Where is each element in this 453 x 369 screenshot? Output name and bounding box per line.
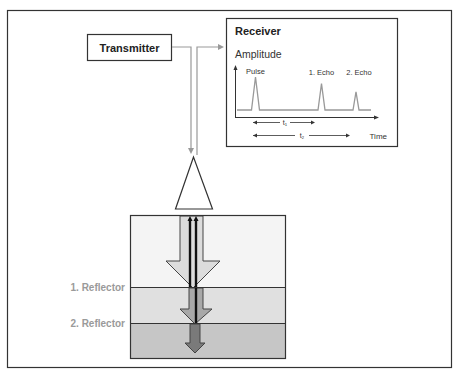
ultrasonic-echo-diagram: Transmitter Receiver Amplitude Pulse 1. … (0, 0, 453, 369)
peak-label-echo-1: 1. Echo (309, 68, 334, 77)
peak-label-pulse: Pulse (246, 67, 265, 76)
transmitter-label: Transmitter (100, 42, 161, 54)
receiver-title: Receiver (235, 25, 282, 37)
peak-label-echo-2: 2. Echo (346, 68, 371, 77)
medium-layer-2 (131, 288, 286, 324)
reflector-2-label: 2. Reflector (71, 318, 126, 329)
medium-layer-3 (131, 324, 286, 359)
reflector-1-label: 1. Reflector (71, 282, 126, 293)
amplitude-axis-label: Amplitude (235, 48, 282, 60)
medium-layer-1 (131, 216, 286, 288)
interval-t2-label: t₂ (300, 132, 305, 139)
interval-t1-label: t₁ (283, 119, 288, 126)
time-axis-label: Time (370, 132, 388, 141)
receiver-box (227, 19, 398, 147)
